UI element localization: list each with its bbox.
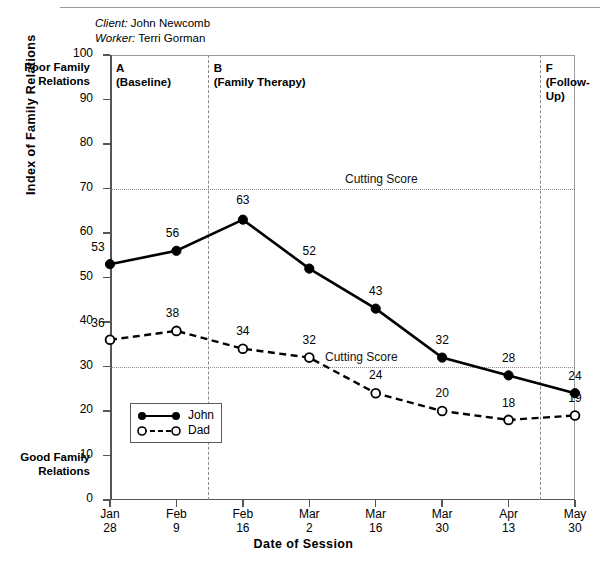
y-tick-label: 0 (53, 491, 93, 505)
point-value-label: 24 (555, 369, 595, 383)
data-point-dad (438, 407, 447, 416)
y-tick-label: 60 (53, 224, 93, 238)
cropped-header-text (110, 0, 530, 4)
legend-swatch-dashed (136, 425, 182, 437)
plot-area: 0102030405060708090100 Jan28Feb9Feb16Mar… (110, 55, 575, 500)
x-tick (176, 500, 178, 507)
x-tick-day: 13 (479, 521, 539, 535)
x-tick-day: 9 (146, 521, 206, 535)
data-point-dad (571, 411, 580, 420)
data-point-dad (172, 327, 181, 336)
data-point-john (438, 353, 447, 362)
y-axis-title: Index of Family Relations (24, 34, 38, 195)
x-axis-title: Date of Session (0, 537, 607, 551)
top-rule (60, 7, 600, 8)
case-info: Client: John Newcomb Worker: Terri Gorma… (95, 16, 210, 45)
y-tick: 100 (103, 54, 110, 56)
x-tick-label: Feb9 (146, 507, 206, 535)
legend-label-john: John (188, 408, 214, 423)
point-value-label: 24 (356, 368, 396, 382)
y-tick-label: 10 (53, 447, 93, 461)
x-tick (441, 500, 443, 507)
point-value-label: 34 (223, 324, 263, 338)
data-point-john (371, 304, 380, 313)
x-tick (109, 500, 111, 507)
x-tick-day: 28 (80, 521, 140, 535)
chart-legend: John Dad (130, 403, 222, 443)
point-value-label: 52 (289, 244, 329, 258)
point-value-label: 19 (555, 391, 595, 405)
x-tick-day: 16 (213, 521, 273, 535)
point-value-label: 20 (422, 386, 462, 400)
x-tick-month: Feb (213, 507, 273, 521)
point-value-label: 53 (78, 240, 118, 254)
point-value-label: 36 (78, 316, 118, 330)
x-tick-label: Mar30 (412, 507, 472, 535)
x-tick-label: Feb16 (213, 507, 273, 535)
x-tick (242, 500, 244, 507)
point-value-label: 18 (489, 396, 529, 410)
x-tick-month: May (545, 507, 605, 521)
worker-name: Terri Gorman (138, 32, 205, 44)
x-tick (375, 500, 377, 507)
point-value-label: 43 (356, 284, 396, 298)
x-tick-month: Feb (146, 507, 206, 521)
data-point-john (504, 371, 513, 380)
data-point-dad (504, 416, 513, 425)
point-value-label: 32 (422, 333, 462, 347)
chart-page: Client: John Newcomb Worker: Terri Gorma… (0, 0, 607, 568)
x-tick (508, 500, 510, 507)
x-tick-month: Mar (279, 507, 339, 521)
x-tick (574, 500, 576, 507)
y-tick: 80 (103, 143, 110, 145)
y-tick-label: 30 (53, 358, 93, 372)
poor-family-relations-note: Poor Family Relations (8, 60, 90, 88)
x-tick (309, 500, 311, 507)
x-tick-month: Mar (412, 507, 472, 521)
point-value-label: 28 (489, 351, 529, 365)
x-tick-month: Jan (80, 507, 140, 521)
x-tick-day: 2 (279, 521, 339, 535)
y-tick: 30 (103, 366, 110, 368)
y-tick-label: 100 (53, 46, 93, 60)
y-tick: 10 (103, 455, 110, 457)
y-tick-label: 90 (53, 91, 93, 105)
x-tick-label: Apr13 (479, 507, 539, 535)
data-point-dad (305, 353, 314, 362)
client-line: Client: John Newcomb (95, 16, 210, 31)
x-tick-month: Apr (479, 507, 539, 521)
legend-swatch-solid (136, 410, 182, 422)
data-point-john (172, 246, 181, 255)
y-tick-label: 70 (53, 180, 93, 194)
x-tick-label: Jan28 (80, 507, 140, 535)
data-point-john (305, 264, 314, 273)
y-tick: 50 (103, 277, 110, 279)
data-point-dad (106, 335, 115, 344)
point-value-label: 63 (223, 193, 263, 207)
x-tick-day: 30 (412, 521, 472, 535)
x-tick-day: 16 (346, 521, 406, 535)
y-tick: 20 (103, 410, 110, 412)
worker-label: Worker: (95, 32, 135, 44)
legend-item-john: John (136, 408, 214, 423)
point-value-label: 38 (152, 306, 192, 320)
data-point-dad (371, 389, 380, 398)
legend-item-dad: Dad (136, 423, 214, 438)
data-point-john (105, 260, 114, 269)
y-tick: 70 (103, 188, 110, 190)
worker-line: Worker: Terri Gorman (95, 31, 210, 46)
x-tick-label: Mar2 (279, 507, 339, 535)
x-tick-month: Mar (346, 507, 406, 521)
client-label: Client: (95, 17, 128, 29)
y-tick: 90 (103, 99, 110, 101)
point-value-label: 56 (152, 226, 192, 240)
y-tick-label: 20 (53, 402, 93, 416)
client-name: John Newcomb (131, 17, 210, 29)
y-tick-label: 80 (53, 135, 93, 149)
data-point-john (238, 215, 247, 224)
legend-label-dad: Dad (188, 423, 210, 438)
y-tick: 60 (103, 232, 110, 234)
y-tick-label: 50 (53, 269, 93, 283)
data-point-dad (238, 344, 247, 353)
x-tick-label: Mar16 (346, 507, 406, 535)
